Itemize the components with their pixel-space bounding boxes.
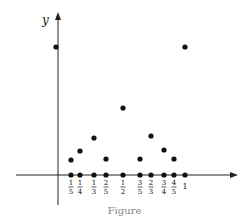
axis-point xyxy=(120,172,125,177)
y-axis-arrow-icon xyxy=(55,12,61,20)
axis-point xyxy=(148,172,153,177)
svg-text:2: 2 xyxy=(104,179,108,187)
axis-point xyxy=(68,172,73,177)
svg-text:1: 1 xyxy=(121,179,125,187)
svg-text:3: 3 xyxy=(149,188,153,196)
svg-text:3: 3 xyxy=(92,188,96,196)
y-axis-label: y xyxy=(41,13,49,27)
data-point xyxy=(161,147,166,152)
data-point xyxy=(91,135,96,140)
svg-text:4: 4 xyxy=(162,188,167,196)
data-point xyxy=(120,105,125,110)
svg-text:3: 3 xyxy=(138,179,142,187)
figure-caption: Figure xyxy=(0,205,249,216)
svg-text:5: 5 xyxy=(138,188,142,196)
tick-label: 23 xyxy=(149,179,154,196)
axis-point xyxy=(161,172,166,177)
svg-text:1: 1 xyxy=(92,179,96,187)
axes xyxy=(16,12,238,205)
svg-text:1: 1 xyxy=(69,179,73,187)
axis-point xyxy=(137,172,142,177)
axis-point xyxy=(103,172,108,177)
data-point xyxy=(68,157,73,162)
tick-label: 15 xyxy=(69,179,74,196)
tick-label: 25 xyxy=(104,179,109,196)
data-points xyxy=(53,44,187,177)
axis-point xyxy=(91,172,96,177)
svg-text:5: 5 xyxy=(172,188,176,196)
svg-text:4: 4 xyxy=(172,179,177,187)
svg-text:5: 5 xyxy=(69,188,73,196)
tick-label: 14 xyxy=(78,179,83,196)
axis-point xyxy=(171,172,176,177)
data-point xyxy=(137,156,142,161)
svg-text:1: 1 xyxy=(182,182,187,191)
data-point xyxy=(77,148,82,153)
svg-text:2: 2 xyxy=(121,188,125,196)
svg-text:5: 5 xyxy=(104,188,108,196)
x-tick-labels: 1514132512352334451 xyxy=(69,179,188,196)
tick-label: 1 xyxy=(182,182,187,191)
data-point xyxy=(171,156,176,161)
data-point xyxy=(53,44,58,49)
axis-point xyxy=(77,172,82,177)
tick-label: 12 xyxy=(121,179,126,196)
data-point xyxy=(148,133,153,138)
svg-text:1: 1 xyxy=(78,179,82,187)
x-axis-arrow-icon xyxy=(230,172,238,178)
data-point xyxy=(103,156,108,161)
svg-text:3: 3 xyxy=(162,179,166,187)
data-point xyxy=(182,44,187,49)
svg-text:2: 2 xyxy=(149,179,153,187)
tick-label: 13 xyxy=(92,179,97,196)
tick-label: 35 xyxy=(138,179,143,196)
thomae-function-plot: 1514132512352334451 y xyxy=(0,0,249,216)
tick-label: 34 xyxy=(162,179,167,196)
axis-point xyxy=(182,172,187,177)
svg-text:4: 4 xyxy=(78,188,83,196)
tick-label: 45 xyxy=(172,179,177,196)
